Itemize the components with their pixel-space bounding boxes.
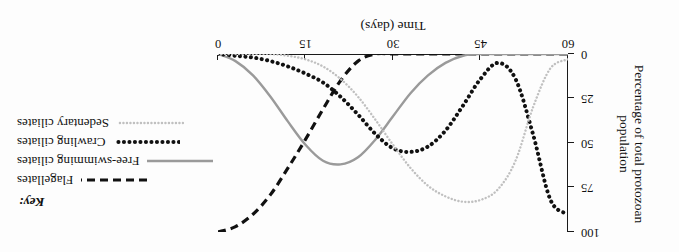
y-tick-label: 100: [581, 225, 600, 240]
legend-swatch-dashed: [80, 176, 148, 186]
legend-swatch-solid: [146, 157, 214, 167]
series-line-sedentary-ciliates: [218, 54, 568, 202]
legend-swatch-fine-dotted: [116, 119, 184, 129]
plot-area: 015304560 0255075100 Time (days) Percent…: [218, 55, 568, 232]
y-tick: [568, 231, 574, 232]
y-tick: [568, 187, 574, 188]
series-line-free-swimming-ciliates: [218, 54, 568, 165]
legend-rows: FlagellatesFree-swimming ciliatesCrawlin…: [17, 114, 217, 190]
y-tick: [568, 98, 574, 99]
x-tick-label: 30: [387, 36, 400, 51]
legend: Key: FlagellatesFree-swimming ciliatesCr…: [17, 114, 217, 210]
data-curves: [218, 54, 568, 232]
legend-item: Sedentary ciliates: [17, 114, 217, 133]
y-tick: [568, 53, 574, 54]
chart-figure: 015304560 0255075100 Time (days) Percent…: [0, 0, 679, 252]
legend-item-label: Sedentary ciliates: [17, 116, 109, 132]
legend-item: Crawling ciliates: [17, 133, 217, 152]
legend-item: Free-swimming ciliates: [17, 152, 217, 171]
x-tick-label: 0: [215, 36, 221, 51]
legend-swatch-bold-dotted: [112, 138, 180, 148]
y-axis-title: Percentage of total protozoan population: [617, 59, 647, 229]
y-tick-label: 50: [581, 136, 594, 151]
x-tick-label: 60: [562, 36, 575, 51]
y-tick-label: 0: [581, 47, 587, 62]
y-tick: [568, 142, 574, 143]
series-line-crawling-ciliates: [218, 54, 568, 214]
legend-item: Flagellates: [17, 171, 217, 190]
y-tick-label: 25: [581, 91, 594, 106]
x-tick-label: 45: [474, 36, 487, 51]
legend-item-label: Crawling ciliates: [17, 135, 105, 151]
legend-title: Key:: [17, 194, 217, 210]
x-tick-label: 15: [299, 36, 312, 51]
y-tick-label: 75: [581, 180, 594, 195]
legend-item-label: Free-swimming ciliates: [17, 154, 139, 170]
x-axis-title: Time (days): [218, 18, 568, 34]
legend-item-label: Flagellates: [17, 173, 73, 189]
